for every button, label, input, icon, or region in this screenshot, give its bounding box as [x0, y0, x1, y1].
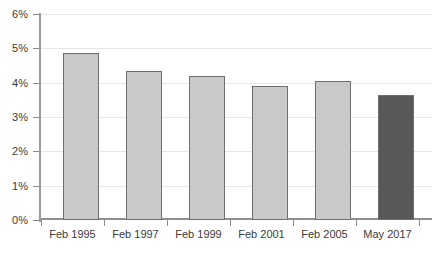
gridline-5 [41, 48, 432, 49]
y-tick-6 [33, 14, 39, 15]
y-tick-3 [33, 117, 39, 118]
x-axis-label-may-2017: May 2017 [356, 228, 419, 240]
y-axis-label-4: 4% [0, 78, 28, 89]
y-axis-label-5: 5% [0, 43, 28, 54]
x-axis-label-feb-1997: Feb 1997 [104, 228, 167, 240]
x-axis-label-feb-2005: Feb 2005 [293, 228, 356, 240]
y-axis-label-3: 3% [0, 112, 28, 123]
y-axis-label-6: 6% [0, 9, 28, 20]
bar-feb-1995 [63, 53, 99, 220]
x-axis-label-feb-1995: Feb 1995 [41, 228, 104, 240]
bar-feb-1999 [189, 76, 225, 220]
y-tick-2 [33, 151, 39, 152]
y-tick-1 [33, 186, 39, 187]
y-axis-label-0: 0% [0, 215, 28, 226]
x-axis-label-feb-2001: Feb 2001 [230, 228, 293, 240]
x-tick-0 [41, 220, 42, 226]
bar-may-2017 [378, 95, 414, 220]
bar-feb-1997 [126, 71, 162, 220]
gridline-3 [41, 117, 432, 118]
bar-feb-2001 [252, 86, 288, 220]
y-tick-0 [33, 220, 39, 221]
x-tick-2 [167, 220, 168, 226]
gridline-2 [41, 151, 432, 152]
x-tick-6 [419, 220, 420, 226]
gridline-1 [41, 186, 432, 187]
y-tick-4 [33, 83, 39, 84]
x-tick-5 [356, 220, 357, 226]
bar-feb-2005 [315, 81, 351, 220]
gridline-4 [41, 83, 432, 84]
y-axis-spine [39, 13, 41, 222]
x-tick-4 [293, 220, 294, 226]
gridline-6 [41, 14, 432, 15]
y-axis-label-2: 2% [0, 146, 28, 157]
x-axis-baseline [41, 218, 432, 220]
plot-area [41, 14, 432, 220]
x-tick-3 [230, 220, 231, 226]
y-axis-label-1: 1% [0, 181, 28, 192]
x-tick-1 [104, 220, 105, 226]
bar-chart-figure: 6% 5% 4% 3% 2% 1% 0% Feb 1995 Feb 1997 F… [0, 0, 432, 258]
y-tick-5 [33, 48, 39, 49]
x-axis-label-feb-1999: Feb 1999 [167, 228, 230, 240]
